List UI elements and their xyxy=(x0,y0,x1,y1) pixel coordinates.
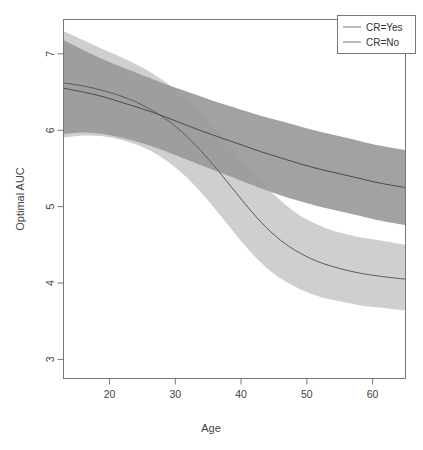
y-tick-label: 5 xyxy=(45,204,57,210)
x-tick-label: 40 xyxy=(235,388,247,400)
x-tick-label: 30 xyxy=(169,388,181,400)
x-tick-label: 50 xyxy=(301,388,313,400)
chart-figure: 34567 2030405060 Age Optimal AUC CR=Yes … xyxy=(0,0,423,450)
y-tick-label: 6 xyxy=(45,127,57,133)
legend-label-cr-no: CR=No xyxy=(366,37,400,48)
x-axis-title: Age xyxy=(201,422,221,434)
y-tick-label: 3 xyxy=(45,356,57,362)
legend-label-cr-yes: CR=Yes xyxy=(366,22,403,33)
y-tick-label: 4 xyxy=(45,280,57,286)
y-axis-title: Optimal AUC xyxy=(14,167,26,231)
optimal-auc-vs-age-chart: 34567 2030405060 Age Optimal AUC CR=Yes … xyxy=(0,0,423,450)
x-tick-label: 60 xyxy=(367,388,379,400)
y-tick-label: 7 xyxy=(45,51,57,57)
chart-legend: CR=Yes CR=No xyxy=(338,16,416,54)
x-tick-label: 20 xyxy=(104,388,116,400)
